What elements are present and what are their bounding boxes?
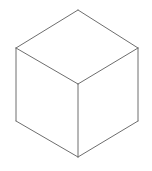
figure-canvas [0,0,152,171]
cube-figure [0,0,152,171]
